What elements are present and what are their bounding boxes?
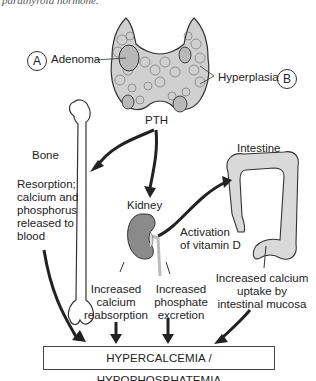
bone-effect-text: Resorption; calcium and phosphorus relea… <box>17 178 78 243</box>
adenoma-label: Adenoma <box>51 53 100 66</box>
kidney-calcium-leader <box>120 262 124 272</box>
arrow-uptake-to-result <box>220 310 250 340</box>
parathyroid-gland-icon <box>111 18 208 112</box>
arrow-bone-to-result <box>44 250 78 340</box>
calcium-reabsorption-text: Increased calcium reabsorption <box>80 283 152 322</box>
kidney-icon <box>128 214 160 276</box>
phosphate-excretion-text: Increased phosphate excretion <box>150 283 212 322</box>
vitamin-d-text: Activation of vitamin D <box>180 226 241 252</box>
arrow-pth-to-bone <box>96 130 154 168</box>
result-box: HYPERCALCEMIA / HYPOPHOSPHATEMIA <box>43 346 275 370</box>
intestine-label: Intestine <box>237 142 280 155</box>
arrow-pth-to-kidney <box>150 130 157 188</box>
marker-a: A <box>27 51 47 71</box>
hyperplasia-label: Hyperplasia <box>218 71 279 84</box>
calcium-uptake-text: Increased calcium uptake by intestinal m… <box>212 272 312 311</box>
bone-label: Bone <box>32 149 59 162</box>
marker-b: B <box>277 69 297 89</box>
kidney-phosphate-leader <box>166 262 170 274</box>
pth-label: PTH <box>145 114 168 127</box>
kidney-label: Kidney <box>127 199 162 212</box>
